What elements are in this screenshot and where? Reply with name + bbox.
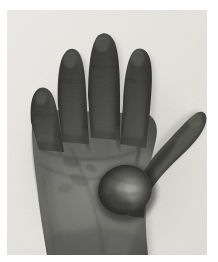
hand-photograph-canvas [7, 10, 207, 255]
clinical-photograph [7, 10, 207, 255]
photo-grain-overlay [7, 10, 207, 255]
screenshot-viewport: open palm of a left hand with a large ro… [0, 0, 218, 262]
